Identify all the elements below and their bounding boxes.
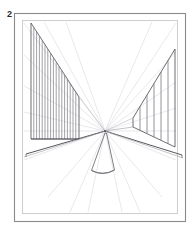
perspective-construction-rays (24, 22, 176, 212)
figure-container: 2 (0, 0, 196, 229)
left-wall-outline (31, 23, 79, 139)
cone-outline (92, 133, 115, 173)
right-post-wall (105, 49, 175, 147)
floor-left-edge (26, 131, 105, 154)
perspective-drawing-canvas (0, 0, 196, 229)
cone-base-ellipse (92, 170, 115, 173)
center-cone-object (92, 133, 115, 173)
figure-number-label: 2 (7, 9, 12, 19)
vanishing-point-marker (104, 130, 106, 132)
floor-right-edge (105, 131, 182, 155)
left-hatched-wall (31, 23, 105, 139)
